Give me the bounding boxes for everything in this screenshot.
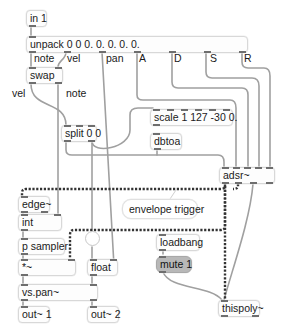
outlet[interactable] bbox=[221, 315, 228, 317]
inlet[interactable] bbox=[255, 167, 262, 169]
object-text: edge~ bbox=[22, 198, 52, 210]
inlet[interactable] bbox=[29, 67, 36, 69]
dbtoa-object[interactable]: dbtoa bbox=[150, 133, 182, 150]
label-swap-note: note bbox=[66, 87, 86, 99]
inlet[interactable] bbox=[90, 306, 97, 308]
outlet[interactable] bbox=[29, 25, 36, 27]
inlet[interactable] bbox=[21, 196, 28, 198]
object-text: *~ bbox=[22, 261, 32, 273]
inlet[interactable] bbox=[181, 109, 188, 111]
object-text: scale 1 127 -30 0. bbox=[154, 111, 237, 123]
object-text: thispoly~ bbox=[222, 302, 264, 314]
label-pan: pan bbox=[106, 52, 124, 64]
object-text: loadbang bbox=[160, 236, 203, 248]
outlet[interactable] bbox=[21, 229, 28, 231]
outlet[interactable] bbox=[250, 182, 257, 184]
int-object[interactable]: int bbox=[18, 214, 62, 231]
out-1-object[interactable]: out~ 1 bbox=[18, 306, 50, 323]
patcher-canvas[interactable]: in 1 unpack 0 0 0. 0. 0. 0. 0. note vel … bbox=[0, 0, 285, 331]
inlet[interactable] bbox=[195, 109, 202, 111]
outlet[interactable] bbox=[90, 299, 97, 301]
object-text: dbtoa bbox=[154, 135, 180, 147]
object-text: int bbox=[22, 216, 33, 228]
inlet[interactable] bbox=[88, 125, 95, 127]
outlet-pan[interactable] bbox=[99, 51, 106, 53]
inlet[interactable] bbox=[159, 256, 166, 258]
outlet[interactable] bbox=[159, 249, 166, 251]
inlet[interactable] bbox=[221, 300, 228, 302]
mute-message[interactable]: mute 1 bbox=[156, 256, 192, 273]
outlet[interactable] bbox=[159, 271, 166, 273]
object-text: p sampler bbox=[22, 240, 68, 252]
object-text: float bbox=[91, 261, 111, 273]
inlet[interactable] bbox=[167, 109, 174, 111]
inlet[interactable] bbox=[159, 234, 166, 236]
multiply-signal-object[interactable]: *~ bbox=[18, 259, 76, 276]
inlet[interactable] bbox=[54, 214, 61, 216]
inlet[interactable] bbox=[55, 67, 62, 69]
outlet[interactable] bbox=[88, 140, 95, 142]
object-text: adsr~ bbox=[223, 169, 250, 181]
edge-object[interactable]: edge~ bbox=[18, 196, 50, 213]
inlet[interactable] bbox=[244, 167, 251, 169]
outlet[interactable] bbox=[55, 82, 62, 84]
label-release: R bbox=[244, 52, 252, 64]
scale-object[interactable]: scale 1 127 -30 0. bbox=[150, 109, 233, 126]
inlet[interactable] bbox=[153, 109, 160, 111]
outlet[interactable] bbox=[21, 299, 28, 301]
inlet[interactable] bbox=[90, 284, 97, 286]
object-text: split 0 0 bbox=[65, 127, 101, 139]
inlet[interactable] bbox=[110, 259, 117, 261]
outlet[interactable] bbox=[29, 82, 36, 84]
outlet[interactable] bbox=[235, 182, 242, 184]
outlet[interactable] bbox=[153, 124, 160, 126]
inlet[interactable] bbox=[266, 167, 273, 169]
label-attack: A bbox=[139, 52, 146, 64]
float-object[interactable]: float bbox=[87, 259, 118, 276]
inlet[interactable] bbox=[76, 125, 83, 127]
outlet[interactable] bbox=[266, 182, 273, 184]
object-text: swap bbox=[30, 69, 55, 81]
loadbang-object[interactable]: loadbang bbox=[156, 234, 200, 251]
adsr-object[interactable]: adsr~ bbox=[219, 167, 275, 184]
label-note: note bbox=[34, 52, 54, 64]
inlet[interactable] bbox=[29, 36, 36, 38]
outlet[interactable] bbox=[21, 253, 28, 255]
swap-object[interactable]: swap bbox=[26, 67, 63, 84]
inlet[interactable] bbox=[68, 259, 75, 261]
outlet[interactable] bbox=[21, 211, 28, 213]
inlet[interactable] bbox=[21, 214, 28, 216]
inlet[interactable] bbox=[21, 306, 28, 308]
inlet[interactable] bbox=[222, 167, 229, 169]
inlet[interactable] bbox=[21, 284, 28, 286]
inlet[interactable] bbox=[209, 109, 216, 111]
outlet[interactable] bbox=[64, 140, 71, 142]
inlet[interactable] bbox=[90, 259, 97, 261]
outlet[interactable] bbox=[41, 211, 48, 213]
unpack-object[interactable]: unpack 0 0 0. 0. 0. 0. 0. bbox=[26, 36, 248, 53]
object-text: out~ 2 bbox=[91, 308, 121, 320]
outlet[interactable] bbox=[154, 148, 161, 150]
envelope-trigger-comment: envelope trigger bbox=[122, 199, 198, 219]
inlet[interactable] bbox=[21, 238, 28, 240]
outlet[interactable] bbox=[252, 315, 259, 317]
inlet[interactable] bbox=[223, 109, 230, 111]
outlet[interactable] bbox=[21, 274, 28, 276]
out-2-object[interactable]: out~ 2 bbox=[87, 306, 119, 323]
in-object[interactable]: in 1 bbox=[26, 10, 47, 27]
bang-button[interactable] bbox=[85, 231, 100, 246]
object-text: in 1 bbox=[30, 12, 47, 24]
inlet[interactable] bbox=[21, 259, 28, 261]
inlet[interactable] bbox=[64, 125, 71, 127]
vs-pan-object[interactable]: vs.pan~ bbox=[18, 284, 98, 301]
outlet[interactable] bbox=[222, 182, 229, 184]
thispoly-object[interactable]: thispoly~ bbox=[218, 300, 260, 317]
object-text: vs.pan~ bbox=[22, 286, 59, 298]
split-object[interactable]: split 0 0 bbox=[61, 125, 97, 142]
message-text: mute 1 bbox=[160, 258, 192, 270]
inlet[interactable] bbox=[153, 133, 160, 135]
label-swap-vel: vel bbox=[12, 87, 25, 99]
outlet[interactable] bbox=[90, 274, 97, 276]
sampler-subpatch[interactable]: p sampler bbox=[18, 238, 65, 255]
inlet[interactable] bbox=[233, 167, 240, 169]
